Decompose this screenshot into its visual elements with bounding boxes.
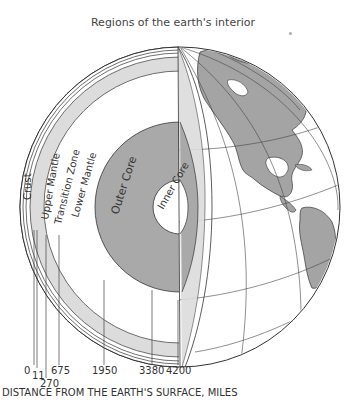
- tick-label-0: 0: [24, 365, 30, 376]
- earth-cutaway-diagram: Crust Upper Mantle Transition Zone Lower…: [0, 0, 346, 409]
- tick-label-4200: 4200: [166, 365, 191, 376]
- tick-label-3380: 3380: [139, 365, 164, 376]
- tick-label-1950: 1950: [92, 365, 117, 376]
- layer-label-crust: Crust: [22, 173, 33, 200]
- tick-label-675: 675: [51, 365, 70, 376]
- axis-label: DISTANCE FROM THE EARTH'S SURFACE, MILES: [2, 387, 238, 398]
